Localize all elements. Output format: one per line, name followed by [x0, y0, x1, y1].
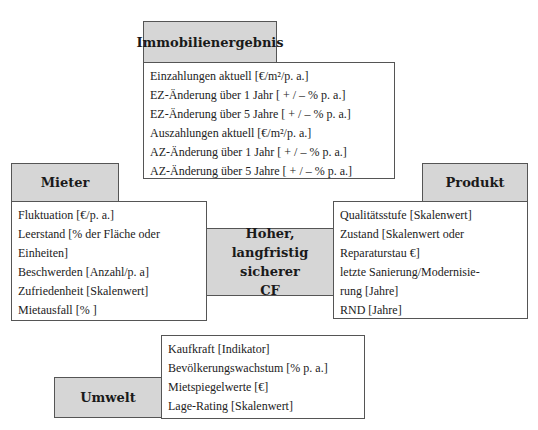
- mieter-title: Mieter: [41, 173, 90, 192]
- list-item: Bevölkerungswachstum [% p. a.]: [168, 359, 358, 378]
- umwelt-header: Umwelt: [54, 377, 162, 418]
- list-item: Leerstand [% der Fläche oder: [18, 225, 200, 244]
- list-item: Zustand [Skalenwert oder: [340, 225, 521, 244]
- list-item: Qualitätsstufe [Skalenwert]: [340, 206, 521, 225]
- list-item: Auszahlungen aktuell [€/m²/p. a.]: [150, 124, 388, 143]
- list-item: Lage-Rating [Skalenwert]: [168, 397, 358, 416]
- list-item: AZ-Änderung über 1 Jahr [ + / – % p. a.]: [150, 143, 388, 162]
- mieter-header: Mieter: [11, 163, 119, 202]
- list-item: AZ-Änderung über 5 Jahre [ + / – % p. a.…: [150, 162, 388, 181]
- list-item: Reparaturstau €]: [340, 244, 521, 263]
- umwelt-title: Umwelt: [80, 388, 136, 407]
- list-item: Kaufkraft [Indikator]: [168, 340, 358, 359]
- list-item: Beschwerden [Anzahl/p. a]: [18, 263, 200, 282]
- produkt-list: Qualitätsstufe [Skalenwert] Zustand [Ska…: [333, 201, 528, 319]
- list-item: EZ-Änderung über 5 Jahre [ + / – % p. a.…: [150, 105, 388, 124]
- list-item: letzte Sanierung/Modernisie-: [340, 263, 521, 282]
- center-line: Hoher,: [245, 224, 294, 243]
- list-item: Fluktuation [€/p. a.]: [18, 206, 200, 225]
- list-item: Einheiten]: [18, 244, 200, 263]
- list-item: Mietausfall [% ]: [18, 301, 200, 320]
- mieter-list: Fluktuation [€/p. a.] Leerstand [% der F…: [11, 201, 207, 321]
- center-line: CF: [260, 281, 280, 300]
- umwelt-list: Kaufkraft [Indikator] Bevölkerungswachst…: [161, 335, 365, 419]
- immobilienergebnis-title: Immobilienergebnis: [136, 33, 283, 52]
- list-item: Mietspiegelwerte [€]: [168, 378, 358, 397]
- list-item: Zufriedenheit [Skalenwert]: [18, 282, 200, 301]
- immobilienergebnis-header: Immobilienergebnis: [143, 21, 277, 63]
- list-item: Einzahlungen aktuell [€/m²/p. a.]: [150, 67, 388, 86]
- list-item: RND [Jahre]: [340, 301, 521, 320]
- immobilienergebnis-list: Einzahlungen aktuell [€/m²/p. a.] EZ-Änd…: [143, 62, 395, 179]
- center-line: langfristig sicherer: [207, 243, 333, 281]
- produkt-title: Produkt: [446, 173, 505, 192]
- list-item: rung [Jahre]: [340, 282, 521, 301]
- list-item: EZ-Änderung über 1 Jahr [ + / – % p. a.]: [150, 86, 388, 105]
- produkt-header: Produkt: [422, 163, 528, 202]
- center-goal-box: Hoher, langfristig sicherer CF: [206, 228, 334, 296]
